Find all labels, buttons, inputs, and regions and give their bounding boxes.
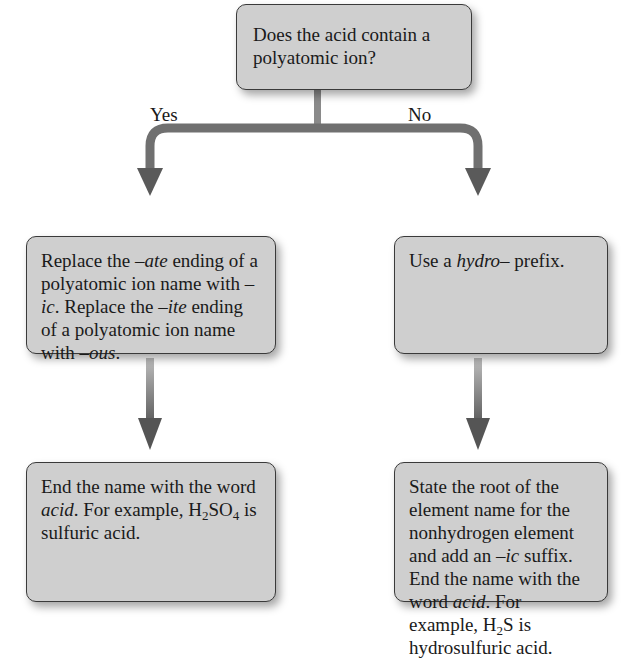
yes-label: Yes [150, 104, 178, 126]
question-box: Does the acid contain a polyatomic ion? [236, 4, 472, 90]
formula-h2so4: H2SO4 [188, 499, 239, 520]
no-down-arrowhead [466, 418, 490, 450]
no-step2-text: State the root of the element name for t… [409, 475, 595, 659]
no-down-shaft [474, 358, 482, 428]
no-arrowhead [465, 168, 491, 196]
question-text: Does the acid contain a polyatomic ion? [253, 23, 459, 69]
yes-arrowhead [137, 168, 163, 196]
yes-step2-box: End the name with the word acid. For exa… [26, 462, 276, 602]
question-stem [314, 90, 321, 128]
yes-step2-text: End the name with the word acid. For exa… [41, 475, 263, 544]
yes-step1-text: Replace the –ate ending of a polyatomic … [41, 249, 263, 364]
no-label: No [408, 104, 431, 126]
no-step1-box: Use a hydro– prefix. [394, 236, 608, 354]
yes-down-shaft [146, 358, 154, 428]
formula-h2s: H2S [483, 614, 514, 635]
no-step1-text: Use a hydro– prefix. [409, 249, 595, 272]
yes-step1-box: Replace the –ate ending of a polyatomic … [26, 236, 276, 354]
yes-down-arrowhead [138, 418, 162, 450]
no-step2-box: State the root of the element name for t… [394, 462, 608, 602]
branch-bar [150, 128, 478, 174]
